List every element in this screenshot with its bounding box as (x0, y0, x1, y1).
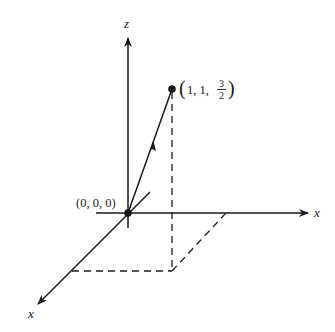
projection-lines (72, 92, 226, 271)
origin-dot (124, 209, 132, 217)
point-label: ( 1, 1, 3 2 ) (179, 77, 235, 101)
origin-label: (0, 0, 0) (76, 196, 116, 210)
diagonal-axis-label: x (27, 306, 34, 321)
z-axis-label: z (123, 16, 129, 31)
point-label-frac-den: 2 (219, 90, 224, 101)
point-label-frac-num: 3 (219, 78, 224, 89)
point-dot (168, 85, 176, 93)
position-vector (128, 89, 172, 213)
vector-diagram: z x x (0, 0, 0) ( 1, 1, 3 2 ) (0, 0, 335, 332)
horizontal-axis-label: x (313, 205, 320, 220)
point-label-open-paren: ( (179, 77, 186, 100)
point-label-coords: 1, 1, (187, 83, 209, 97)
point-label-close-paren: ) (228, 77, 235, 100)
